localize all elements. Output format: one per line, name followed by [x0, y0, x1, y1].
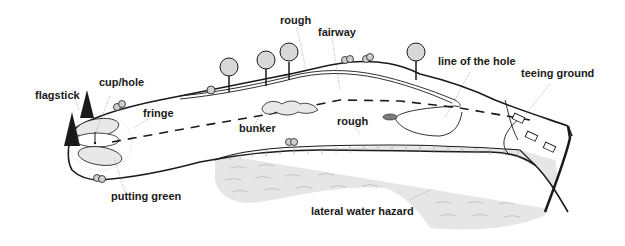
label-rough-top: rough	[280, 15, 311, 26]
tree-icon	[280, 43, 298, 80]
small-bunker	[383, 114, 397, 120]
label-line-of-the-hole: line of the hole	[438, 56, 516, 67]
label-bunker: bunker	[239, 123, 276, 134]
bunker	[262, 101, 318, 115]
golf-hole-diagram: rough fairway line of the hole teeing gr…	[0, 0, 625, 246]
label-fairway: fairway	[318, 27, 356, 38]
label-teeing-ground: teeing ground	[521, 68, 594, 79]
label-fringe: fringe	[143, 108, 174, 119]
label-flagstick: flagstick	[35, 90, 80, 101]
label-lateral-water-hazard: lateral water hazard	[311, 206, 414, 217]
pine-tree-icon	[80, 90, 94, 118]
label-putting-green: putting green	[111, 191, 181, 202]
line-of-the-hole	[112, 100, 530, 142]
fairway-boundary	[180, 71, 520, 155]
cup-hole-dot	[94, 142, 96, 144]
label-cup-hole: cup/hole	[99, 77, 144, 88]
label-rough-bottom: rough	[337, 116, 368, 127]
